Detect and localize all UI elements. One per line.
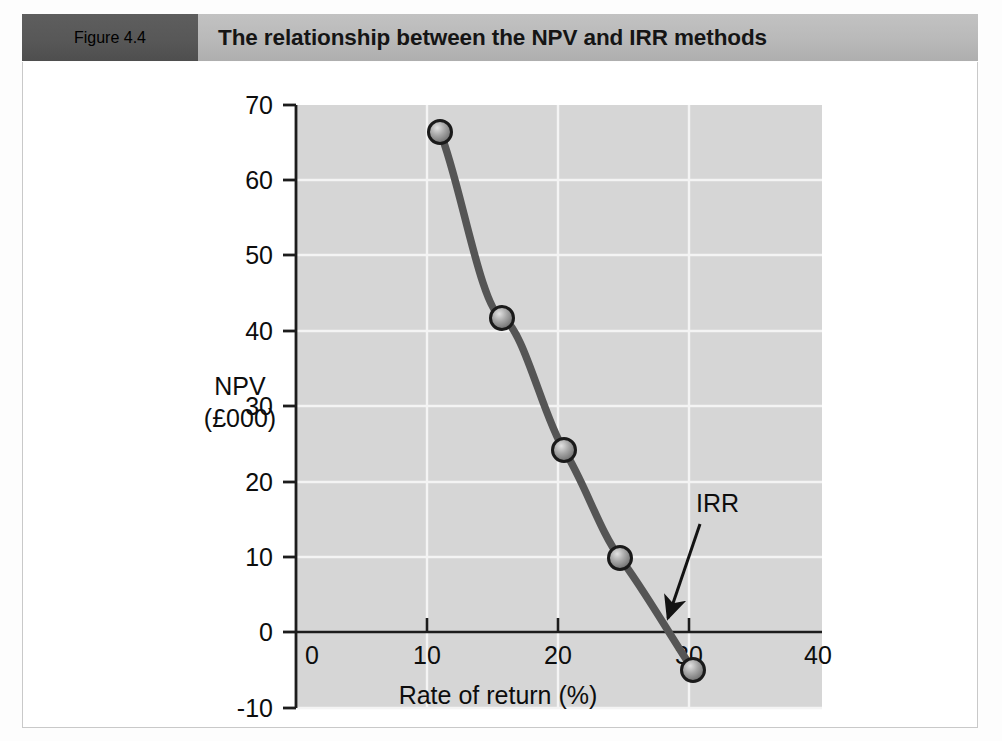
data-point-5 (682, 659, 705, 682)
data-point-2 (491, 307, 514, 330)
figure-title: The relationship between the NPV and IRR… (218, 14, 767, 61)
y-axis-label-line2: (£000) (204, 404, 276, 432)
x-axis-label: Rate of return (%) (399, 681, 598, 709)
chart-container: 70 60 50 40 30 20 10 0 -10 0 10 20 30 40… (0, 62, 1002, 741)
y-tick-label-20: 20 (245, 468, 273, 496)
irr-annotation-label: IRR (696, 489, 739, 517)
y-tick-label-70: 70 (245, 91, 273, 119)
y-tick-label-40: 40 (245, 317, 273, 345)
npv-irr-line-chart: 70 60 50 40 30 20 10 0 -10 0 10 20 30 40… (0, 62, 1002, 741)
figure-number-label: Figure 4.4 (74, 29, 146, 47)
data-point-3 (553, 439, 576, 462)
y-tick-label-60: 60 (245, 166, 273, 194)
data-point-4 (609, 547, 632, 570)
figure-header-bar: Figure 4.4 The relationship between the … (22, 14, 978, 61)
x-tick-label-10: 10 (413, 641, 441, 669)
y-axis-ticks (283, 105, 296, 708)
figure-root: Figure 4.4 The relationship between the … (0, 0, 1002, 741)
y-tick-label-minus10: -10 (237, 694, 273, 722)
x-tick-label-0: 0 (305, 641, 319, 669)
y-axis-label-line1: NPV (214, 372, 266, 400)
y-tick-label-10: 10 (245, 543, 273, 571)
y-tick-label-50: 50 (245, 241, 273, 269)
data-point-1 (429, 121, 452, 144)
y-tick-label-0: 0 (259, 618, 273, 646)
figure-number-block: Figure 4.4 (22, 14, 198, 61)
x-tick-label-20: 20 (544, 641, 572, 669)
x-tick-label-40: 40 (804, 641, 832, 669)
